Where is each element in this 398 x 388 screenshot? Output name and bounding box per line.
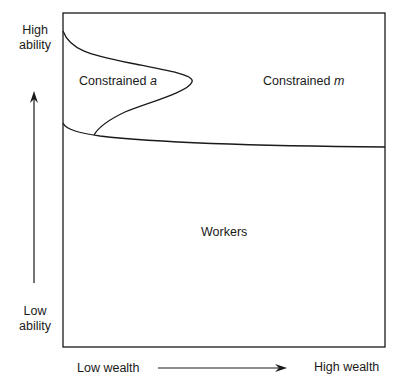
low-wealth-label: Low wealth [77, 361, 140, 376]
constrained-m-variable: m [334, 74, 344, 88]
low-ability-line1: Low [10, 304, 60, 319]
constrained-m-label: Constrained m [263, 74, 344, 89]
high-wealth-label: High wealth [314, 360, 379, 375]
constrained-m-text: Constrained [263, 74, 334, 88]
low-ability-line2: ability [10, 319, 60, 334]
constrained-a-label: Constrained a [79, 74, 157, 89]
workers-label: Workers [201, 225, 247, 240]
worker-boundary-curve [63, 123, 385, 147]
plot-frame [63, 13, 385, 347]
high-ability-label: High ability [10, 23, 60, 53]
high-ability-line1: High [10, 23, 60, 38]
high-ability-line2: ability [10, 38, 60, 53]
low-ability-label: Low ability [10, 304, 60, 334]
constrained-a-variable: a [150, 74, 157, 88]
constrained-a-text: Constrained [79, 74, 150, 88]
